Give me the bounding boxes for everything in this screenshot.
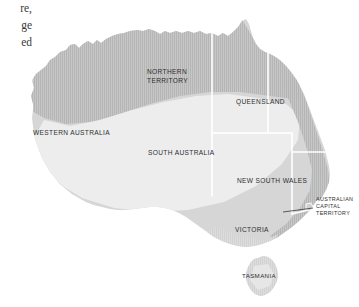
screenshot-stage: re, ge ed [0, 0, 359, 307]
tasmania-landmass [244, 254, 280, 300]
act-enclave [306, 203, 313, 211]
australia-map [0, 0, 359, 307]
mainland-landmass [28, 16, 332, 250]
